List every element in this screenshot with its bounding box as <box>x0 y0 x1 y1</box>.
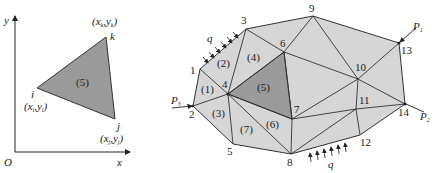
load-label-p2: P2 <box>419 110 430 123</box>
node-label-9: 9 <box>309 2 315 14</box>
load-label-p1: P1 <box>412 20 423 33</box>
element-label-6: (6) <box>266 118 279 131</box>
coord-label-i: (xi,yi) <box>24 100 48 113</box>
node-label-1: 1 <box>190 64 196 76</box>
node-label-14: 14 <box>398 106 410 118</box>
node-label-j: j <box>115 120 120 132</box>
element-label-5: (5) <box>76 76 89 89</box>
load-label-q-bottom: q <box>328 158 334 170</box>
mesh-figure: 1 2 3 4 5 6 7 8 9 10 11 12 13 14 (1) (2)… <box>170 2 430 170</box>
node-label-6: 6 <box>280 37 286 49</box>
origin-label: O <box>4 156 12 168</box>
node-label-10: 10 <box>355 61 367 73</box>
node-label-8: 8 <box>287 156 293 168</box>
node-label-13: 13 <box>401 44 413 56</box>
coord-label-j: (xj,yj) <box>100 132 124 145</box>
node-label-4: 4 <box>222 78 228 90</box>
element-label-3: (3) <box>212 107 225 120</box>
element-label-1: (1) <box>201 83 214 96</box>
load-label-q-top: q <box>207 32 213 44</box>
element-label-7: (7) <box>240 123 253 136</box>
node-label-11: 11 <box>359 94 370 106</box>
load-label-p3: P3 <box>170 94 181 107</box>
node-label-3: 3 <box>241 14 247 26</box>
element-label-5: (5) <box>257 81 270 94</box>
finite-element-diagram: y x O (5) i (xi,yi) k (xk,yk) j (xj,yj) <box>0 0 434 173</box>
y-axis-label: y <box>3 14 9 26</box>
node-label-12: 12 <box>360 136 371 148</box>
node-label-5: 5 <box>227 145 233 157</box>
element-label-2: (2) <box>217 57 230 70</box>
node-label-k: k <box>110 30 116 42</box>
node-label-i: i <box>31 88 34 100</box>
node-label-2: 2 <box>189 108 195 120</box>
coord-label-k: (xk,yk) <box>92 15 118 28</box>
left-figure: y x O (5) i (xi,yi) k (xk,yk) j (xj,yj) <box>3 14 130 168</box>
node-label-7: 7 <box>294 103 300 115</box>
x-axis-label: x <box>116 156 122 168</box>
element-label-4: (4) <box>247 51 260 64</box>
